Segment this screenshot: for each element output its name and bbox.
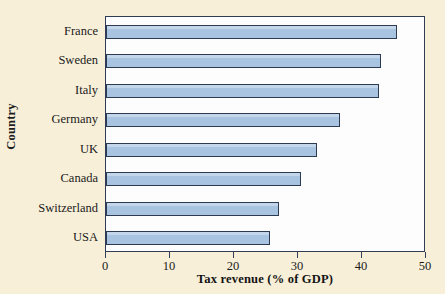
bar (106, 172, 301, 186)
x-axis-tick-mark (169, 252, 170, 258)
bar (106, 231, 270, 245)
y-axis-tick-label: UK (22, 143, 98, 156)
bar (106, 202, 279, 216)
y-axis-title: Country (0, 0, 22, 252)
y-axis-tick-label: Canada (22, 172, 98, 185)
y-axis-tick-label: USA (22, 231, 98, 244)
y-axis-tick-label: Sweden (22, 54, 98, 67)
y-axis-tick-label: Switzerland (22, 202, 98, 215)
bar (106, 113, 340, 127)
bar (106, 143, 317, 157)
bar (106, 54, 381, 68)
y-axis-tick-label: Italy (22, 84, 98, 97)
bar (106, 84, 379, 98)
y-axis-tick-label: Germany (22, 113, 98, 126)
x-axis-tick-mark (425, 252, 426, 258)
y-axis-tick-label: France (22, 25, 98, 38)
bar-chart-figure: Country FranceSwedenItalyGermanyUKCanada… (0, 0, 445, 294)
y-axis-tick-label-group: FranceSwedenItalyGermanyUKCanadaSwitzerl… (22, 16, 98, 252)
x-axis-tick-mark (361, 252, 362, 258)
plot-area (105, 16, 425, 252)
x-axis-title: Tax revenue (% of GDP) (105, 272, 425, 287)
y-axis-title-text: Country (4, 103, 19, 150)
x-axis-tick-mark (297, 252, 298, 258)
bar (106, 25, 397, 39)
x-axis-tick-mark (233, 252, 234, 258)
x-axis-tick-mark (105, 252, 106, 258)
bar-group (106, 17, 424, 251)
